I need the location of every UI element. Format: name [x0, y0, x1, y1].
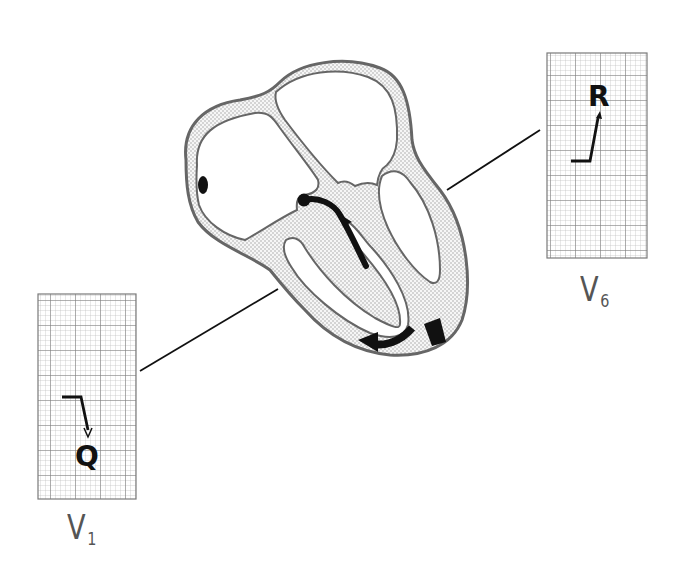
v6-lead-label: V6 — [580, 272, 609, 310]
v1-label-sub: 1 — [87, 528, 96, 549]
heart-illustration — [186, 61, 468, 355]
v6-wave-letter-r: R — [588, 83, 610, 111]
v1-lead-line — [140, 289, 278, 371]
v1-label-main: V — [67, 507, 86, 547]
ecg-heart-diagram: R Q V6 V1 — [0, 0, 685, 581]
v6-label-main: V — [580, 269, 599, 309]
v1-lead-label: V1 — [67, 510, 96, 548]
v6-label-sub: 6 — [600, 290, 609, 311]
v1-wave-letter-q: Q — [75, 443, 99, 471]
v6-lead-line — [447, 130, 540, 190]
sinoatrial-node — [198, 176, 208, 194]
